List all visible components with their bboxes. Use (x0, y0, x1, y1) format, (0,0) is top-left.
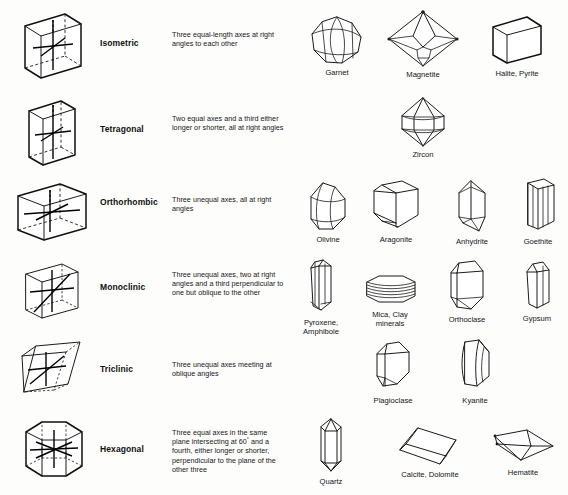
system-name-orthorhombic: Orthorhombic (100, 197, 170, 207)
mineral-olivine: Olivine (296, 181, 360, 244)
mineral-magnetite: Magnetite (384, 10, 462, 79)
mineral-label: Olivine (296, 235, 360, 244)
mineral-mica-clay: Mica, Clay minerals (355, 272, 425, 329)
system-row-isometric: Isometric Three equal-length axes at rig… (0, 0, 568, 88)
system-row-hexagonal: Hexagonal Three equal axes in the same p… (0, 416, 568, 495)
mineral-label: Anhydrite (438, 237, 506, 246)
system-name-tetragonal: Tetragonal (100, 124, 170, 134)
axis-diagram-hexagonal (8, 418, 96, 488)
system-description-triclinic: Three unequal axes meeting at oblique an… (172, 360, 284, 378)
system-name-triclinic: Triclinic (100, 364, 170, 374)
mineral-plagioclase: Plagioclase (355, 340, 431, 405)
axis-diagram-orthorhombic (8, 180, 96, 246)
system-description-isometric: Three equal-length axes at right angles … (172, 30, 284, 48)
system-name-hexagonal: Hexagonal (100, 444, 170, 454)
mineral-label: Garnet (301, 68, 373, 77)
mineral-gypsum: Gypsum (508, 260, 566, 323)
mineral-aragonite: Aragonite (362, 179, 430, 244)
mineral-label: Goethite (510, 237, 566, 246)
mineral-label: Plagioclase (355, 396, 431, 405)
system-row-tetragonal: Tetragonal Two equal axes and a third ei… (0, 88, 568, 175)
mineral-hematite: Hematite (485, 426, 561, 477)
mineral-label: Kyanite (440, 396, 510, 405)
mineral-anhydrite: Anhydrite (438, 179, 506, 246)
mineral-label: Aragonite (362, 235, 430, 244)
system-description-tetragonal: Two equal axes and a third either longer… (172, 114, 284, 132)
mineral-label: Magnetite (384, 70, 462, 79)
mineral-halite-pyrite: Halite, Pyrite (477, 13, 557, 78)
mineral-goethite: Goethite (510, 177, 566, 246)
mineral-label: Halite, Pyrite (477, 69, 557, 78)
axis-diagram-isometric (8, 8, 96, 82)
system-row-monoclinic: Monoclinic Three unequal axes, two at ri… (0, 258, 568, 340)
system-name-monoclinic: Monoclinic (100, 282, 170, 292)
system-row-orthorhombic: Orthorhombic Three unequal axes, all at … (0, 175, 568, 260)
crystal-systems-figure: Isometric Three equal-length axes at rig… (0, 0, 568, 495)
mineral-quartz: Quartz (295, 417, 367, 486)
system-description-monoclinic: Three unequal axes, two at right angles … (172, 270, 284, 298)
mineral-label: Calcite, Dolomite (375, 470, 485, 479)
mineral-label: Pyroxene, Amphibole (288, 318, 354, 337)
mineral-label: Mica, Clay minerals (355, 310, 425, 329)
axis-diagram-monoclinic (8, 260, 96, 326)
mineral-orthoclase: Orthoclase (432, 259, 502, 324)
axis-diagram-triclinic (8, 340, 96, 402)
mineral-kyanite: Kyanite (440, 338, 510, 405)
mineral-label: Quartz (295, 477, 367, 486)
mineral-garnet: Garnet (301, 14, 373, 77)
system-name-isometric: Isometric (100, 38, 170, 48)
mineral-label: Zircon (384, 150, 462, 159)
mineral-calcite-dolomite: Calcite, Dolomite (375, 424, 485, 479)
system-description-hexagonal: Three equal axes in the same plane inter… (172, 428, 284, 474)
mineral-zircon: Zircon (384, 96, 462, 159)
axis-diagram-tetragonal (8, 93, 96, 171)
mineral-label: Hematite (485, 468, 561, 477)
system-description-orthorhombic: Three unequal axes, all at right angles (172, 195, 284, 213)
system-row-triclinic: Triclinic Three unequal axes meeting at … (0, 338, 568, 416)
mineral-label: Gypsum (508, 314, 566, 323)
mineral-label: Orthoclase (432, 315, 502, 324)
mineral-pyroxene-amphibole: Pyroxene, Amphibole (288, 258, 354, 337)
